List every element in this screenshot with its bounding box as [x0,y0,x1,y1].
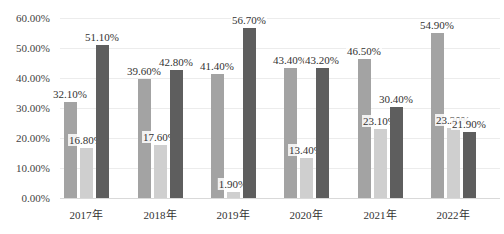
y-tick-label: 10.00% [2,162,50,174]
bar [96,45,109,198]
bar [284,68,297,198]
bar [316,68,329,198]
data-label: 56.70% [231,14,267,26]
data-label: 42.80% [158,56,194,68]
y-tick-label: 40.00% [2,72,50,84]
bar [170,70,183,198]
bar [80,148,93,198]
data-label: 30.40% [378,93,414,105]
data-label: 46.50% [346,45,382,57]
bar [300,158,313,198]
x-tick-label: 2018年 [144,206,177,222]
data-label: 43.20% [304,54,340,66]
gridline [60,198,500,199]
data-label: 32.10% [52,88,88,100]
x-tick-label: 2017年 [70,206,103,222]
x-tick-label: 2019年 [217,206,250,222]
legend [0,226,504,234]
data-label: 51.10% [84,31,120,43]
y-tick-label: 30.00% [2,102,50,114]
bar [154,145,167,198]
y-tick-label: 0.00% [2,192,50,204]
bar [243,28,256,198]
x-tick-label: 2022年 [437,206,470,222]
data-label: 21.90% [451,118,487,130]
bar [390,107,403,198]
bar [358,59,371,199]
y-tick-label: 50.00% [2,42,50,54]
x-tick-label: 2020年 [290,206,323,222]
bar [463,132,476,198]
y-tick-label: 60.00% [2,12,50,24]
x-tick-label: 2021年 [364,206,397,222]
bar-chart: 0.00%10.00%20.00%30.00%40.00%50.00%60.00… [0,0,504,234]
data-label: 41.40% [199,60,235,72]
bar [374,129,387,198]
bar [447,128,460,198]
y-tick-label: 20.00% [2,132,50,144]
data-label: 43.40% [272,54,308,66]
bar [64,102,77,198]
bar [227,192,240,198]
data-label: 54.90% [419,19,455,31]
data-label: 39.60% [126,65,162,77]
